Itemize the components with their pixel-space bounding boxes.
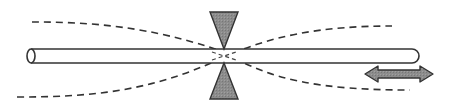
focusing-cone-top [210, 12, 238, 49]
focusing-cone-bottom [210, 63, 238, 99]
translation-double-arrow [365, 66, 433, 82]
envelope-top-left [32, 22, 224, 52]
diagram-canvas: Fiber drawn through focused beam waist [0, 0, 458, 111]
envelope-bottom-left [17, 58, 222, 97]
fiber-rod [27, 49, 419, 63]
rod-end-left [27, 49, 35, 63]
diagram-svg [0, 0, 458, 111]
